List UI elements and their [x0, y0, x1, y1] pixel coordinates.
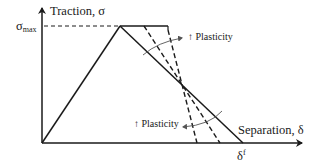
sigma-max-label: σmax [16, 20, 37, 34]
sigma-max-subscript: max [23, 25, 37, 34]
sigma-max-base: σ [16, 19, 23, 33]
y-axis-label: Traction, σ [50, 5, 105, 18]
x-axis-label: Separation, δ [238, 124, 304, 137]
delta-f-label: δf [237, 149, 246, 163]
traction-separation-diagram: Traction, σ σmax ↑ Plasticity ↑ Plastici… [0, 0, 316, 168]
upper-plasticity-label: ↑ Plasticity [188, 32, 233, 42]
lower-plasticity-label: ↑ Plasticity [134, 119, 179, 129]
diagram-graphics [0, 0, 316, 168]
lower-plasticity-arc [183, 111, 222, 127]
delta-f-superscript: f [243, 148, 246, 157]
elastic-loading-line [42, 26, 120, 143]
